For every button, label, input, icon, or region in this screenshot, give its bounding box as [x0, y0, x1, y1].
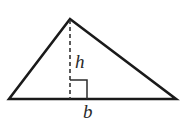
height-label: h [75, 52, 85, 71]
geometry-figure-triangle: h b [0, 0, 185, 134]
triangle-outline [9, 19, 176, 99]
triangle-diagram-canvas [0, 0, 185, 134]
base-label: b [83, 102, 93, 121]
right-angle-square-icon [70, 80, 87, 99]
